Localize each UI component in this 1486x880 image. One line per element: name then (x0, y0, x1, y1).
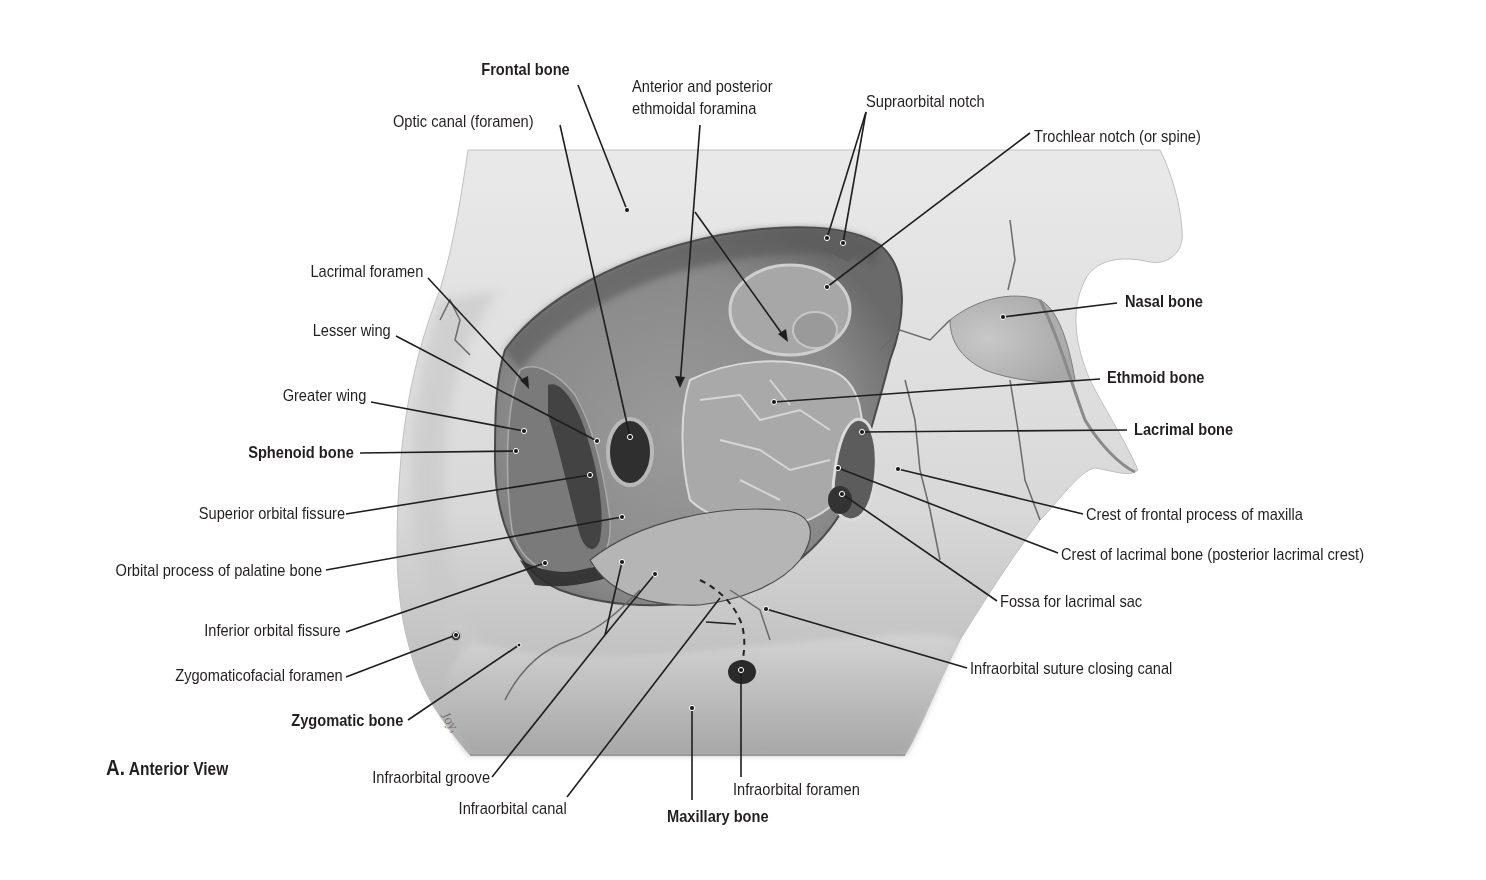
label-orbital-process-palatine: Orbital process of palatine bone (116, 561, 322, 581)
optic-canal-shape (608, 419, 652, 485)
label-lacrimal-bone: Lacrimal bone (1134, 420, 1233, 440)
label-optic-canal: Optic canal (foramen) (393, 112, 534, 132)
orbit-illustration: Joy, (0, 0, 1486, 880)
label-trochlear-notch: Trochlear notch (or spine) (1034, 127, 1201, 147)
label-ethmoid-bone: Ethmoid bone (1107, 368, 1204, 388)
caption-view: Anterior View (129, 759, 229, 779)
label-lacrimal-foramen: Lacrimal foramen (310, 262, 423, 282)
orbit-anatomy-figure: Joy, Frontal bone Optic canal (foramen) … (0, 0, 1486, 880)
label-infraorbital-groove: Infraorbital groove (372, 768, 490, 788)
label-supraorbital-notch: Supraorbital notch (866, 92, 985, 112)
label-greater-wing: Greater wing (282, 386, 366, 406)
figure-caption: A. Anterior View (106, 755, 228, 781)
label-zygomatic-bone: Zygomatic bone (291, 711, 403, 731)
label-crest-lacrimal-bone: Crest of lacrimal bone (posterior lacrim… (1061, 545, 1364, 565)
label-zygomaticofacial-foramen: Zygomaticofacial foramen (176, 666, 343, 686)
label-nasal-bone: Nasal bone (1125, 292, 1203, 312)
label-maxillary-bone: Maxillary bone (667, 807, 769, 827)
label-crest-frontal-process-maxilla: Crest of frontal process of maxilla (1086, 505, 1303, 525)
label-infraorbital-canal: Infraorbital canal (459, 799, 567, 819)
caption-letter: A. (106, 755, 125, 780)
label-ethmoidal-foramina-line1: Anterior and posterior (632, 77, 773, 97)
label-frontal-bone: Frontal bone (481, 60, 570, 80)
maxilla-shading (444, 635, 960, 755)
label-sphenoid-bone: Sphenoid bone (248, 443, 354, 463)
label-lesser-wing: Lesser wing (313, 321, 391, 341)
label-infraorbital-suture: Infraorbital suture closing canal (970, 659, 1172, 679)
label-inferior-orbital-fissure: Inferior orbital fissure (204, 621, 341, 641)
label-fossa-lacrimal-sac: Fossa for lacrimal sac (1000, 592, 1142, 612)
label-ethmoidal-foramina-line2: ethmoidal foramina (632, 99, 756, 119)
label-superior-orbital-fissure: Superior orbital fissure (199, 504, 345, 524)
label-infraorbital-foramen: Infraorbital foramen (733, 780, 860, 800)
